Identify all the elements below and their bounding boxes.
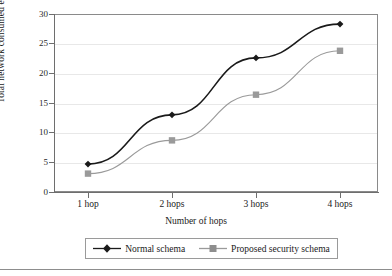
y-tick-label-30: 30	[28, 9, 48, 19]
y-axis	[54, 14, 55, 193]
x-tick-label-4-hops: 4 hops	[327, 199, 352, 209]
x-tick-4	[340, 193, 341, 198]
gridline-25	[55, 44, 377, 45]
square-marker-icon	[199, 243, 227, 254]
gridline-5	[55, 163, 377, 164]
x-tick-label-3-hops: 3 hops	[243, 199, 268, 209]
legend-item-proposed-security-schema[interactable]: Proposed security schema	[199, 243, 330, 254]
gridline-20	[55, 74, 377, 75]
gridline-15	[55, 104, 377, 105]
y-tick-10	[49, 132, 54, 133]
plot-area	[54, 14, 378, 192]
y-tick-label-25: 25	[28, 38, 48, 48]
x-tick-3	[256, 193, 257, 198]
y-tick-label-0: 0	[28, 187, 48, 197]
x-axis-title: Number of hops	[0, 216, 392, 226]
y-axis-title: Total network consumed energy (J)	[0, 0, 6, 103]
diamond-marker-icon	[93, 243, 121, 254]
y-tick-25	[49, 43, 54, 44]
chart-figure: 30 25 20 15 10 5 0 Total network consume…	[0, 0, 392, 276]
legend-item-normal-schema[interactable]: Normal schema	[93, 243, 185, 254]
x-tick-1	[88, 193, 89, 198]
y-tick-label-5: 5	[28, 157, 48, 167]
x-tick-label-1-hop: 1 hop	[77, 199, 98, 209]
legend-label-proposed-security-schema: Proposed security schema	[231, 244, 330, 254]
legend-label-normal-schema: Normal schema	[125, 244, 185, 254]
x-tick-2	[172, 193, 173, 198]
y-tick-label-10: 10	[28, 127, 48, 137]
y-tick-5	[49, 162, 54, 163]
footer-rule	[0, 269, 392, 270]
x-axis	[54, 192, 379, 193]
y-tick-label-20: 20	[28, 68, 48, 78]
y-tick-30	[49, 14, 54, 15]
y-tick-15	[49, 103, 54, 104]
gridline-10	[55, 133, 377, 134]
y-tick-label-15: 15	[28, 98, 48, 108]
x-tick-label-2-hops: 2 hops	[159, 199, 184, 209]
chart-legend: Normal schema Proposed security schema	[85, 238, 338, 259]
y-tick-20	[49, 73, 54, 74]
